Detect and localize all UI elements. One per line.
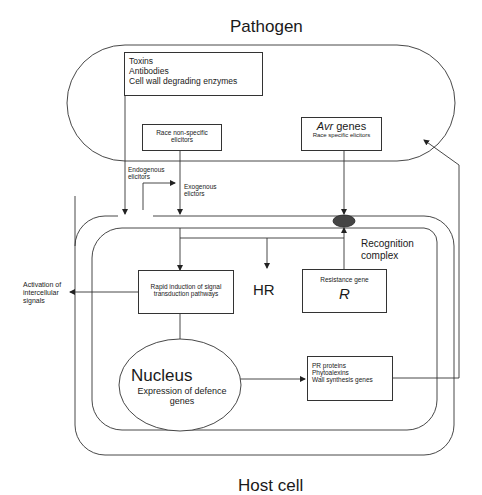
resistance-gene-box: Resistance gene R <box>302 269 387 313</box>
pathogen-title: Pathogen <box>230 17 303 37</box>
recognition-complex-label: Recognitioncomplex <box>361 238 414 261</box>
nucleus-title: Nucleus <box>124 366 240 386</box>
exogenous-label: Exogenouselictors <box>184 183 217 198</box>
nucleus-text: Nucleus Expression of defence genes <box>124 366 240 406</box>
hr-label: HR <box>253 281 275 298</box>
defence-products-box: PR proteins Phytoalexins Wall synthesis … <box>307 356 393 401</box>
host-cell-title: Host cell <box>238 476 303 495</box>
activation-label: Activation ofintercellularsignals <box>23 281 61 305</box>
virulence-factors-box: Toxins Antibodies Cell wall degrading en… <box>124 52 263 96</box>
r-gene-symbol: R <box>305 285 384 302</box>
nonspecific-elicitors-box: Race non-specific elicitors <box>142 124 222 151</box>
receptor-complex <box>333 215 355 227</box>
virulence-item: Antibodies <box>129 66 258 76</box>
cell-wall-outer <box>75 196 454 455</box>
avr-italic: Avr <box>317 120 333 132</box>
virulence-item: Toxins <box>129 56 258 66</box>
avr-genes-box: Avr genes Race specific elicitors <box>301 117 382 151</box>
signal-transduction-box: Rapid induction of signaltransduction pa… <box>138 270 234 314</box>
virulence-item: Cell wall degrading enzymes <box>129 76 258 86</box>
endogenous-label: Endogenouselicitors <box>128 166 165 181</box>
